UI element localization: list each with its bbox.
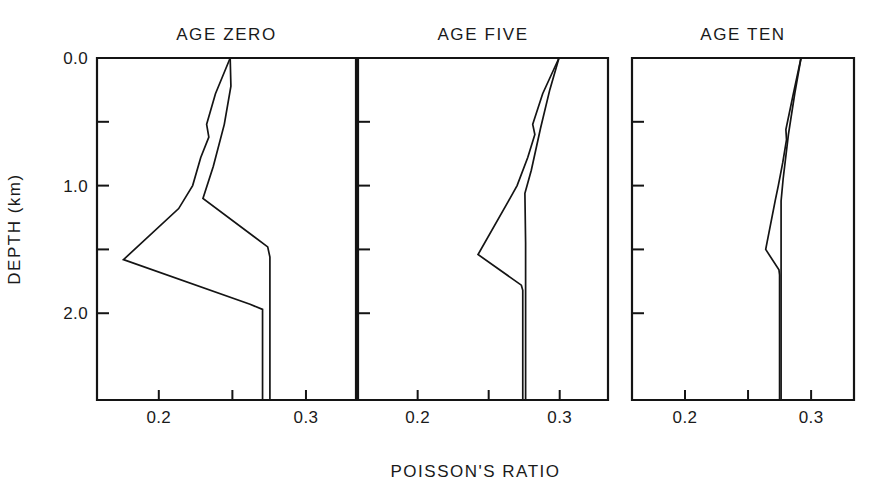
panel-2-xtick-label-0: 0.2 — [405, 408, 430, 427]
ytick-label-0: 0.0 — [63, 49, 88, 68]
panel-2-curve-upper-branch — [478, 58, 559, 400]
y-axis-title: DEPTH (km) — [5, 173, 24, 284]
panel-2-xtick-label-2: 0.3 — [547, 408, 572, 427]
panel-2-axis-frame — [358, 58, 608, 400]
panel-3-axis-frame — [632, 58, 854, 400]
ytick-label-4: 2.0 — [63, 304, 88, 323]
panel-1-title: AGE ZERO — [176, 25, 277, 44]
ytick-label-2: 1.0 — [63, 177, 88, 196]
panel-3-title: AGE TEN — [700, 25, 786, 44]
poissons-ratio-depth-profiles-chart: AGE ZERO0.20.3AGE FIVE0.20.3AGE TEN0.20.… — [0, 0, 884, 497]
panel-3-curve-lower-branch — [781, 58, 801, 400]
x-axis-title: POISSON'S RATIO — [391, 462, 561, 481]
panel-2-title: AGE FIVE — [437, 25, 528, 44]
panel-1-curve-lower-branch — [203, 58, 270, 400]
panel-1-xtick-label-2: 0.3 — [294, 408, 319, 427]
panel-3-curve-upper-branch — [766, 58, 801, 400]
figure-container: AGE ZERO0.20.3AGE FIVE0.20.3AGE TEN0.20.… — [0, 0, 884, 497]
panel-3-xtick-label-0: 0.2 — [673, 408, 698, 427]
panel-3-xtick-label-2: 0.3 — [799, 408, 824, 427]
panel-2-curve-lower-branch — [525, 58, 559, 400]
panel-1-curve-upper-branch — [123, 58, 262, 400]
panel-1-xtick-label-0: 0.2 — [146, 408, 171, 427]
